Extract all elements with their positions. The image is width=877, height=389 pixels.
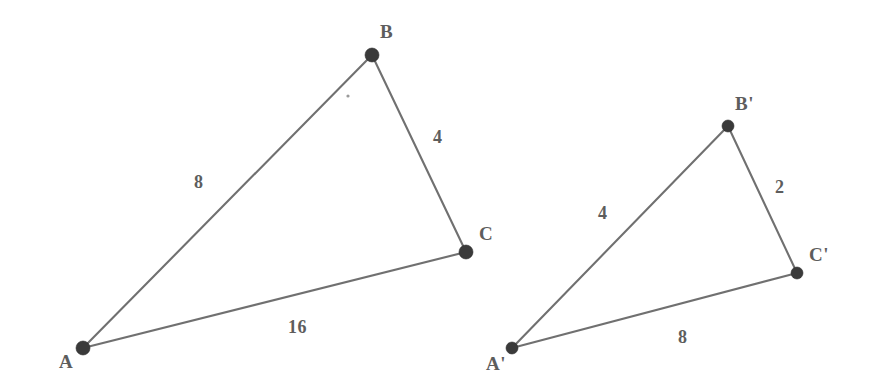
triangle-abc-edges (83, 55, 466, 348)
diagram-svg (0, 0, 877, 389)
edge-bc-prime (728, 126, 797, 273)
side-length-bc: 4 (433, 128, 443, 146)
vertex-dot-b-prime (722, 120, 734, 132)
triangle-abc-vertices (76, 48, 473, 355)
vertex-label-c: C (479, 224, 493, 243)
vertex-label-a: A (59, 352, 73, 371)
vertex-label-a-prime: A' (486, 354, 506, 373)
vertex-label-b: B (380, 22, 393, 41)
side-length-ab-prime: 4 (598, 204, 608, 222)
side-length-ac: 16 (288, 318, 307, 336)
vertex-dot-a (76, 341, 90, 355)
side-length-ac-prime: 8 (678, 328, 688, 346)
edge-ac (83, 252, 466, 348)
speck-dot-icon (346, 94, 349, 97)
vertex-dot-c (459, 245, 473, 259)
triangle-abc-prime-edges (512, 126, 797, 348)
triangle-abc-prime-vertices (506, 120, 803, 354)
edge-ab (83, 55, 372, 348)
geometry-diagram-canvas: A B C 8 4 16 A' B' C' 4 2 8 (0, 0, 877, 389)
vertex-label-c-prime: C' (809, 245, 829, 264)
vertex-dot-c-prime (791, 267, 803, 279)
edge-ab-prime (512, 126, 728, 348)
edge-bc (372, 55, 466, 252)
vertex-dot-b (365, 48, 379, 62)
edge-ac-prime (512, 273, 797, 348)
side-length-ab: 8 (194, 173, 204, 191)
vertex-dot-a-prime (506, 342, 518, 354)
vertex-label-b-prime: B' (735, 94, 754, 113)
side-length-bc-prime: 2 (775, 178, 785, 196)
